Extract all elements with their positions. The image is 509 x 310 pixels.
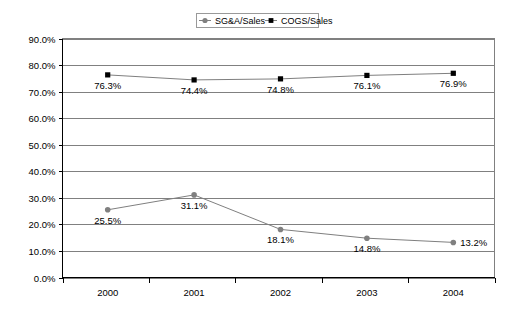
y-axis-tick-label: 30.0% xyxy=(29,193,56,204)
square-marker xyxy=(278,76,283,81)
data-point-label: 18.1% xyxy=(267,234,294,245)
y-axis-tick-label: 70.0% xyxy=(29,87,56,98)
y-axis-tick-label: 20.0% xyxy=(29,219,56,230)
data-point-label: 74.8% xyxy=(267,84,294,95)
data-point-label: 74.4% xyxy=(181,85,208,96)
chart-container: 0.0%10.0%20.0%30.0%40.0%50.0%60.0%70.0%8… xyxy=(0,0,509,310)
data-point-label: 76.1% xyxy=(353,80,380,91)
square-marker xyxy=(105,72,110,77)
x-axis-tick-label: 2001 xyxy=(184,287,205,298)
circle-marker xyxy=(191,192,197,198)
data-point-label: 76.9% xyxy=(440,78,467,89)
square-marker xyxy=(269,18,274,23)
circle-marker xyxy=(105,207,111,213)
data-point-label: 76.3% xyxy=(94,80,121,91)
data-point-label: 13.2% xyxy=(460,237,487,248)
x-axis-tick-label: 2004 xyxy=(443,287,464,298)
y-axis-tick-label: 40.0% xyxy=(29,166,56,177)
circle-marker xyxy=(202,18,207,23)
data-point-label: 14.8% xyxy=(353,243,380,254)
legend-item-label: SG&A/Sales xyxy=(215,16,266,26)
y-axis-tick-label: 0.0% xyxy=(34,273,56,284)
x-axis-tick-label: 2003 xyxy=(356,287,377,298)
x-axis-tick-label: 2000 xyxy=(97,287,118,298)
legend-item-label: COGS/Sales xyxy=(281,16,333,26)
y-axis-tick-label: 10.0% xyxy=(29,246,56,257)
data-point-label: 31.1% xyxy=(181,200,208,211)
chart-legend[interactable]: SG&A/SalesCOGS/Sales xyxy=(197,14,334,28)
square-marker xyxy=(364,73,369,78)
y-axis-tick-label: 80.0% xyxy=(29,60,56,71)
circle-marker xyxy=(278,227,284,233)
y-axis-tick-label: 60.0% xyxy=(29,113,56,124)
circle-marker xyxy=(451,240,457,246)
line-chart: 0.0%10.0%20.0%30.0%40.0%50.0%60.0%70.0%8… xyxy=(0,0,509,310)
circle-marker xyxy=(364,235,370,241)
square-marker xyxy=(451,71,456,76)
data-point-label: 25.5% xyxy=(94,215,121,226)
x-axis-tick-label: 2002 xyxy=(270,287,291,298)
square-marker xyxy=(192,77,197,82)
y-axis-tick-label: 50.0% xyxy=(29,140,56,151)
y-axis-tick-label: 90.0% xyxy=(29,34,56,45)
chart-background xyxy=(0,0,509,310)
